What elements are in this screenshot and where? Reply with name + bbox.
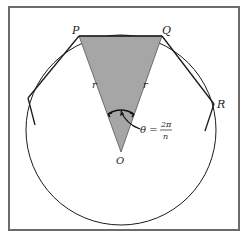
label-theta: θ =	[140, 124, 158, 135]
label-r-right: r	[143, 79, 149, 90]
label-p: P	[71, 24, 80, 37]
label-o: O	[116, 155, 124, 166]
polygon-diagram: P Q R O r r θ = 2π n	[0, 0, 250, 237]
edge-left-lower	[28, 98, 35, 125]
edge-right-lower	[205, 104, 214, 131]
label-r: R	[216, 98, 225, 111]
label-q: Q	[162, 24, 171, 37]
edge-qr	[162, 36, 214, 104]
edge-left-upper	[28, 36, 79, 98]
label-theta-numerator: 2π	[160, 120, 172, 129]
label-theta-denominator: n	[163, 132, 168, 141]
